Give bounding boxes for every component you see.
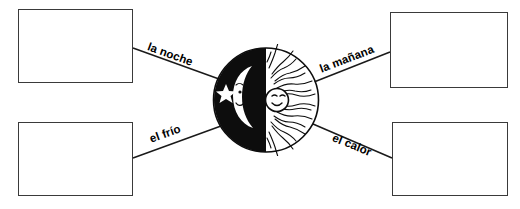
night-half-group — [214, 48, 266, 152]
answer-box-top-left[interactable] — [18, 9, 133, 83]
answer-box-bottom-left[interactable] — [18, 122, 133, 196]
answer-box-bottom-right[interactable] — [392, 122, 508, 196]
worksheet-canvas: la noche la mañana el frío el calor — [0, 0, 520, 209]
answer-box-top-right[interactable] — [390, 12, 508, 88]
day-half-group — [266, 40, 319, 160]
